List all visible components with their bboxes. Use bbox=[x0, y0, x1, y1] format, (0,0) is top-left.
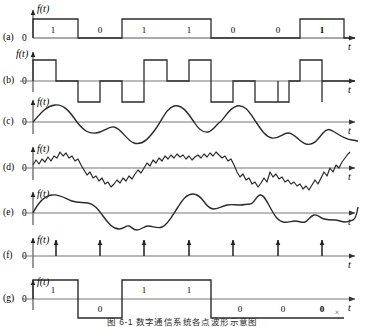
panel-b-y-axis-label: f(t) bbox=[16, 48, 29, 60]
signal-waveform-figure: (a) 0 f(t) t 1 0 1 1 0 0 1 (b) 0 f(t) t … bbox=[0, 0, 365, 327]
panel-a-bit-5: 0 bbox=[276, 25, 281, 35]
panel-d-x-axis-label: t bbox=[348, 171, 351, 182]
panel-f: (f) 0 f(t) t bbox=[3, 234, 355, 270]
panel-g-bit-1: 0 bbox=[98, 304, 103, 314]
panel-g-bit-5: 0 bbox=[281, 304, 286, 314]
panel-a-bit-1: 0 bbox=[98, 25, 103, 35]
panel-f-impulse-train bbox=[56, 240, 322, 256]
panel-a-bit-0: 1 bbox=[51, 25, 56, 35]
panel-c-x-axis-label: t bbox=[348, 125, 351, 136]
panel-a-bit-6: 1 bbox=[320, 25, 325, 35]
panel-f-label: (f) bbox=[3, 250, 13, 261]
panel-a-bit-2: 1 bbox=[142, 25, 147, 35]
panel-g-x-axis-label: t bbox=[348, 302, 351, 313]
panel-c-y-axis-label: f(t) bbox=[37, 96, 50, 108]
panel-g-bit-4: 0 bbox=[238, 304, 243, 314]
panel-a-y-axis-label: f(t) bbox=[37, 3, 50, 15]
panel-c: (c) 0 f(t) t bbox=[3, 96, 358, 144]
panel-a-bit-3: 1 bbox=[187, 25, 192, 35]
panel-b-label: (b) bbox=[3, 75, 14, 86]
panel-d-waveform bbox=[33, 152, 350, 190]
panel-a-waveform bbox=[33, 19, 355, 38]
panel-c-waveform bbox=[33, 105, 358, 144]
panel-g-bit-2: 1 bbox=[142, 285, 147, 295]
panel-d-y-axis-label: f(t) bbox=[37, 143, 50, 155]
panel-g-label: (g) bbox=[3, 293, 14, 304]
figure-caption: 图 6-1 数字通信系统各点波形示意图 bbox=[0, 317, 365, 327]
panel-c-label: (c) bbox=[3, 116, 14, 127]
panel-g-bit-3: 1 bbox=[187, 285, 192, 295]
panel-f-x-axis-label: t bbox=[348, 259, 351, 270]
panel-g: (g) 0 f(t) t 1 0 1 1 0 0 0 × bbox=[3, 276, 355, 318]
panel-a: (a) 0 f(t) t 1 0 1 1 0 0 1 bbox=[3, 3, 355, 52]
panel-g-error-marker: × bbox=[335, 308, 340, 317]
panel-d-label: (d) bbox=[3, 162, 14, 173]
panel-g-y-axis-label: f(t) bbox=[37, 276, 50, 288]
panel-a-label: (a) bbox=[3, 32, 14, 43]
panel-e: (e) 0 f(t) t bbox=[3, 188, 358, 230]
panel-b: (b) 0 f(t) t bbox=[3, 48, 355, 102]
panel-f-y-axis-label: f(t) bbox=[37, 234, 50, 246]
panel-a-zero-label: 0 bbox=[22, 33, 27, 43]
panel-d: (d) 0 f(t) t bbox=[3, 143, 355, 190]
panel-e-waveform bbox=[33, 194, 358, 230]
panel-e-label: (e) bbox=[3, 207, 14, 218]
panel-a-bit-4: 0 bbox=[231, 25, 236, 35]
panel-a-x-axis-label: t bbox=[348, 41, 351, 52]
panel-g-bit-0: 1 bbox=[51, 285, 56, 295]
panel-g-bit-6: 0 bbox=[320, 304, 325, 314]
panel-b-x-axis-label: t bbox=[348, 84, 351, 95]
